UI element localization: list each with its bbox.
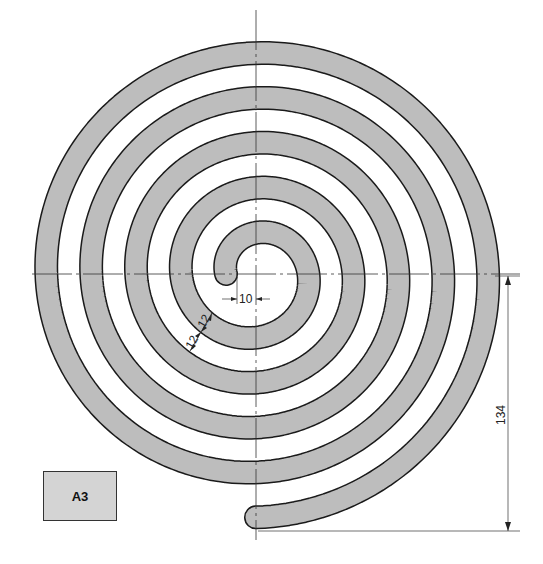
dimension-overall-height-value: 134 bbox=[494, 405, 508, 425]
title-block-label: A3 bbox=[72, 489, 89, 504]
spiral-band bbox=[46, 53, 488, 517]
dimension-inner-gap-value: 10 bbox=[239, 292, 253, 306]
title-block-a3: A3 bbox=[43, 471, 117, 521]
